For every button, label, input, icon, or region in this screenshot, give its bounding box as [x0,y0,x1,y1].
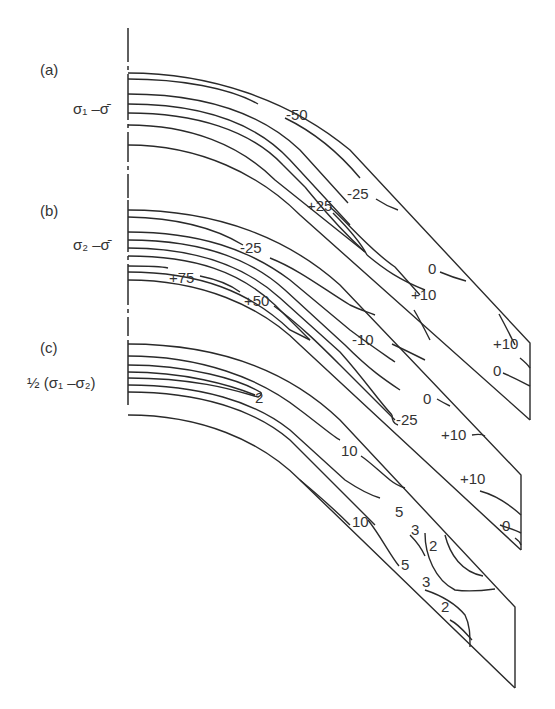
svg-text:+10: +10 [411,286,436,303]
svg-text:+10: +10 [441,426,466,443]
svg-text:0: 0 [423,390,431,407]
svg-text:+10: +10 [460,470,485,487]
svg-text:+75: +75 [169,269,194,286]
contour-diagram: -50 -25 +25 0 +10 +10 0 [0,0,555,709]
svg-text:3: 3 [422,573,430,590]
svg-text:3: 3 [411,521,419,538]
panel-c-contours: 2 10 10 5 3 2 5 3 2 [128,344,515,688]
svg-text:0: 0 [493,362,501,379]
svg-text:5: 5 [401,556,409,573]
svg-text:-25: -25 [396,411,418,428]
svg-text:0: 0 [502,517,510,534]
panel-a-contours: -50 -25 +25 0 +10 +10 0 [128,73,530,420]
svg-text:+25: +25 [307,197,332,214]
svg-text:-50: -50 [286,106,308,123]
svg-text:0: 0 [428,260,436,277]
svg-text:10: 10 [352,513,369,530]
svg-text:-25: -25 [240,239,262,256]
svg-text:+50: +50 [244,292,269,309]
svg-text:-10: -10 [352,331,374,348]
svg-text:+10: +10 [493,335,518,352]
svg-text:10: 10 [341,442,358,459]
svg-text:2: 2 [429,537,437,554]
svg-text:2: 2 [255,389,263,406]
svg-text:5: 5 [395,503,403,520]
panel-b-contours: -25 +75 +50 -10 0 -25 +10 +10 0 [128,210,521,550]
svg-text:2: 2 [441,598,449,615]
svg-text:-25: -25 [347,185,369,202]
